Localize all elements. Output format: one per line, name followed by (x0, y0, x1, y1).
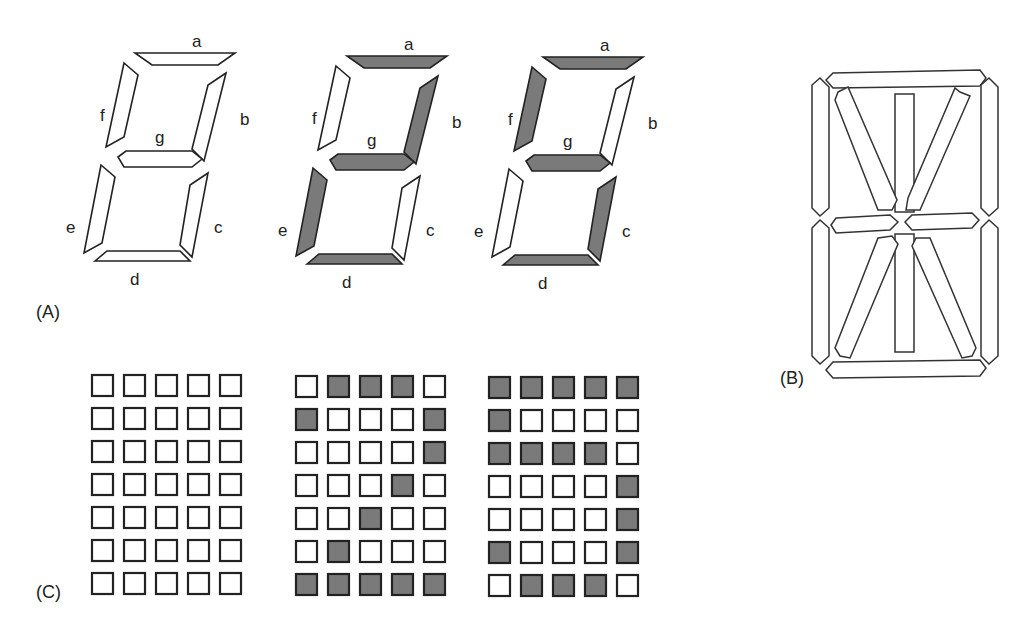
dot-r2-c3 (188, 441, 209, 462)
dot-r1-c3 (188, 408, 209, 429)
dot-r4-c0 (489, 509, 510, 530)
dot-r1-c1 (328, 409, 349, 430)
dot-r0-c0 (296, 376, 317, 397)
segment-label-g: g (563, 132, 572, 151)
sixteen-segment-display (812, 70, 998, 378)
segment-label-f: f (100, 106, 105, 125)
dot-r1-c2 (553, 410, 574, 431)
dot-r0-c2 (360, 376, 381, 397)
dot-r1-c0 (296, 409, 317, 430)
dot-r1-c2 (360, 409, 381, 430)
dot-r4-c4 (617, 509, 638, 530)
dot-r5-c0 (296, 541, 317, 562)
dot-r0-c1 (521, 377, 542, 398)
segment-c (392, 176, 420, 260)
sixteen-segment-7 (895, 234, 914, 352)
dot-r1-c2 (156, 408, 177, 429)
dot-r6-c3 (585, 575, 606, 596)
dot-r3-c1 (328, 475, 349, 496)
sixteen-segment-13 (912, 238, 976, 358)
dot-r1-c4 (424, 409, 445, 430)
segment-label-c: c (426, 221, 435, 240)
sixteen-segment-8 (831, 215, 898, 233)
dot-r6-c1 (124, 573, 145, 594)
dot-r1-c4 (617, 410, 638, 431)
dot-r5-c3 (188, 540, 209, 561)
segment-e (84, 165, 115, 253)
dot-r6-c4 (424, 574, 445, 595)
seven-segment-display-digit-5: abcdefg (474, 36, 657, 293)
segment-label-e: e (474, 222, 483, 241)
dot-r6-c0 (92, 573, 113, 594)
dot-r0-c4 (617, 377, 638, 398)
dot-r4-c2 (156, 507, 177, 528)
sixteen-segment-1 (826, 360, 986, 378)
figure-canvas: abcdefgabcdefgabcdefg(A)(B)(C) (0, 0, 1033, 630)
dot-r5-c3 (585, 542, 606, 563)
segment-b (600, 77, 634, 165)
sixteen-segment-10 (835, 87, 897, 210)
segment-label-g: g (367, 131, 376, 150)
dot-r2-c1 (328, 442, 349, 463)
dot-r3-c3 (188, 474, 209, 495)
dot-r2-c2 (360, 442, 381, 463)
segment-d (503, 255, 598, 265)
segment-a (543, 57, 643, 69)
dot-r4-c4 (424, 508, 445, 529)
segment-label-c: c (622, 222, 631, 241)
segment-label-c: c (214, 218, 223, 237)
dot-r4-c1 (124, 507, 145, 528)
dot-r2-c3 (585, 443, 606, 464)
seven-segment-display-blank: abcdefg (66, 32, 249, 289)
segment-b (192, 73, 226, 161)
dot-r1-c4 (220, 408, 241, 429)
dot-r5-c1 (521, 542, 542, 563)
segment-e (296, 168, 327, 256)
dot-r2-c0 (489, 443, 510, 464)
segment-a (135, 53, 235, 65)
dot-r6-c1 (521, 575, 542, 596)
segment-label-f: f (312, 109, 317, 128)
dot-r5-c4 (617, 542, 638, 563)
dot-r5-c0 (489, 542, 510, 563)
dot-r1-c1 (124, 408, 145, 429)
panel-label-c: (C) (36, 582, 61, 602)
dot-r6-c1 (328, 574, 349, 595)
dot-r6-c2 (360, 574, 381, 595)
segment-label-f: f (508, 110, 513, 129)
dot-r3-c3 (392, 475, 413, 496)
dot-r1-c0 (489, 410, 510, 431)
dot-r3-c0 (296, 475, 317, 496)
dot-r3-c2 (360, 475, 381, 496)
dot-r4-c1 (328, 508, 349, 529)
segment-label-b: b (648, 114, 657, 133)
dot-matrix-blank (92, 375, 241, 594)
dot-r3-c4 (424, 475, 445, 496)
segment-label-b: b (452, 113, 461, 132)
dot-r4-c3 (585, 509, 606, 530)
dot-r4-c3 (392, 508, 413, 529)
dot-r5-c3 (392, 541, 413, 562)
dot-r0-c3 (188, 375, 209, 396)
segment-d (307, 254, 402, 264)
dot-r4-c4 (220, 507, 241, 528)
sixteen-segment-4 (981, 78, 998, 216)
segment-label-d: d (538, 274, 547, 293)
dot-r4-c2 (360, 508, 381, 529)
dot-r3-c2 (553, 476, 574, 497)
segment-g (526, 155, 610, 171)
segment-f (318, 66, 350, 150)
dot-r5-c4 (424, 541, 445, 562)
dot-r6-c2 (156, 573, 177, 594)
segment-g (330, 154, 414, 170)
dot-r3-c1 (521, 476, 542, 497)
dot-r5-c1 (124, 540, 145, 561)
segment-f (514, 67, 546, 151)
dot-r3-c3 (585, 476, 606, 497)
dot-r5-c1 (328, 541, 349, 562)
dot-r4-c2 (553, 509, 574, 530)
segment-f (106, 63, 138, 147)
segment-g (118, 151, 202, 167)
sixteen-segment-11 (906, 88, 970, 210)
panel-label-a: (A) (36, 302, 60, 322)
